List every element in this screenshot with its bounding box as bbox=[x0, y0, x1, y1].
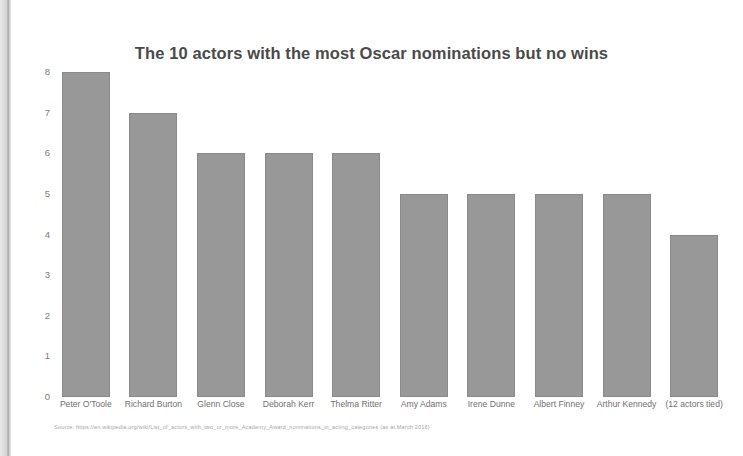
bar-slot bbox=[255, 72, 323, 397]
y-axis-tick: 0 bbox=[45, 392, 50, 402]
x-axis-label: (12 actors tied) bbox=[660, 400, 728, 409]
bar-slot bbox=[525, 72, 593, 397]
y-axis-tick: 8 bbox=[45, 67, 50, 77]
bar bbox=[332, 153, 380, 397]
bar-slot bbox=[52, 72, 120, 397]
bar-slot bbox=[458, 72, 526, 397]
x-axis-label: Glenn Close bbox=[187, 400, 255, 409]
y-axis-tick: 7 bbox=[45, 108, 50, 118]
bar-slot bbox=[660, 72, 728, 397]
x-axis-label: Irene Dunne bbox=[458, 400, 526, 409]
y-axis: 012345678 bbox=[30, 72, 50, 397]
plot-area: 012345678 bbox=[52, 72, 728, 397]
x-axis-label: Albert Finney bbox=[525, 400, 593, 409]
bar bbox=[467, 194, 515, 397]
bar-slot bbox=[593, 72, 661, 397]
y-axis-tick: 3 bbox=[45, 270, 50, 280]
chart-page: The 10 actors with the most Oscar nomina… bbox=[0, 0, 743, 456]
bar bbox=[197, 153, 245, 397]
bar-slot bbox=[120, 72, 188, 397]
y-axis-tick: 4 bbox=[45, 230, 50, 240]
y-axis-tick: 1 bbox=[45, 352, 50, 362]
bar-slot bbox=[390, 72, 458, 397]
y-axis-tick: 5 bbox=[45, 189, 50, 199]
bar bbox=[603, 194, 651, 397]
x-axis-label: Richard Burton bbox=[120, 400, 188, 409]
x-axis-label: Peter O'Toole bbox=[52, 400, 120, 409]
x-axis-label: Deborah Kerr bbox=[255, 400, 323, 409]
bar bbox=[62, 72, 110, 397]
bar bbox=[670, 235, 718, 398]
bar bbox=[535, 194, 583, 397]
y-axis-tick: 6 bbox=[45, 149, 50, 159]
bar-series bbox=[52, 72, 728, 397]
bar-slot bbox=[187, 72, 255, 397]
bar bbox=[265, 153, 313, 397]
x-axis-label: Arthur Kennedy bbox=[593, 400, 661, 409]
x-axis-label: Thelma Ritter bbox=[322, 400, 390, 409]
y-axis-tick: 2 bbox=[45, 311, 50, 321]
bar bbox=[400, 194, 448, 397]
scanned-page-edge bbox=[0, 0, 11, 456]
chart-title: The 10 actors with the most Oscar nomina… bbox=[0, 44, 743, 63]
x-axis-labels: Peter O'TooleRichard BurtonGlenn CloseDe… bbox=[52, 400, 728, 409]
bar bbox=[129, 113, 177, 397]
source-note: Source: https://en.wikipedia.org/wiki/Li… bbox=[54, 424, 430, 430]
bar-slot bbox=[322, 72, 390, 397]
x-axis-label: Amy Adams bbox=[390, 400, 458, 409]
